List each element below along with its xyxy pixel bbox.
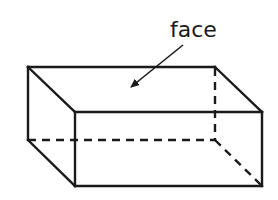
face-label: face [170,17,217,42]
hidden-edge-bottom-right-depth [215,140,262,186]
edge-bottom-left-depth [28,140,75,186]
prism-diagram: face [0,0,278,200]
edge-top-right-depth [215,67,262,112]
edge-top-left-depth [28,67,75,112]
